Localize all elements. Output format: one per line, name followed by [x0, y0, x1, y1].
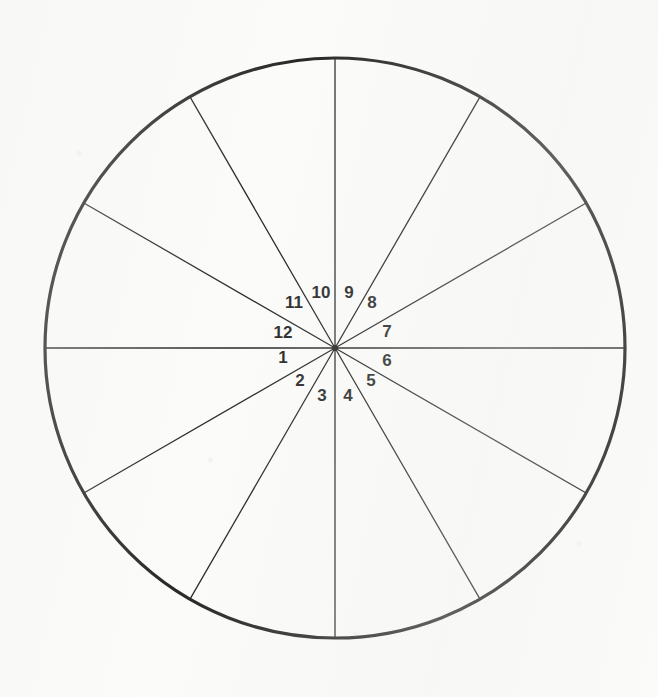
sector-label: 2 [295, 371, 304, 390]
radius-spoke [84, 348, 335, 493]
figure-container: 123456789101112 [0, 0, 658, 697]
sector-label: 3 [317, 386, 326, 405]
sector-label: 7 [382, 322, 391, 341]
sector-label: 10 [312, 283, 331, 302]
radius-spoke [190, 97, 335, 348]
sector-label: 12 [274, 323, 293, 342]
sector-label: 5 [366, 371, 375, 390]
radius-spoke [335, 203, 586, 348]
radius-spoke [335, 348, 480, 599]
radius-spoke [335, 97, 480, 348]
radius-spoke [190, 348, 335, 599]
sector-label: 4 [343, 386, 353, 405]
center-point [332, 345, 338, 351]
sector-label: 1 [278, 348, 287, 367]
radius-spoke [335, 348, 586, 493]
sector-label: 8 [367, 293, 376, 312]
sector-label: 11 [285, 293, 303, 312]
sector-label: 6 [382, 351, 391, 370]
sector-label: 9 [344, 283, 353, 302]
radius-spoke [84, 203, 335, 348]
circle-sector-diagram: 123456789101112 [0, 0, 658, 697]
